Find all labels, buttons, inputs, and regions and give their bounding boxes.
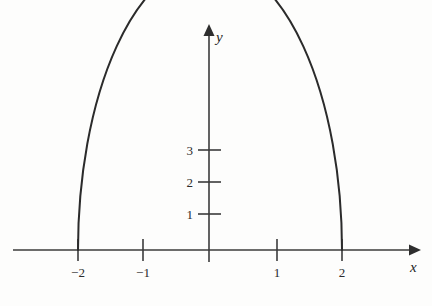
x-tick-label-2: 2 xyxy=(339,265,346,280)
semicircle-curve xyxy=(78,0,342,250)
x-tick-label-neg2: −2 xyxy=(71,265,85,280)
y-tick-label-3: 3 xyxy=(187,143,194,158)
x-tick-label-neg1: −1 xyxy=(136,265,150,280)
x-axis-arrow-icon xyxy=(409,245,421,256)
y-tick-label-2: 2 xyxy=(187,175,194,190)
chart-canvas: −2 −1 1 2 1 2 3 y x xyxy=(0,0,432,306)
y-tick-label-1: 1 xyxy=(187,207,194,222)
chart-figure: −2 −1 1 2 1 2 3 y x xyxy=(0,0,432,306)
x-axis-label: x xyxy=(409,259,417,275)
y-axis-label: y xyxy=(214,29,223,45)
y-axis-arrow-icon xyxy=(204,24,215,36)
x-tick-label-1: 1 xyxy=(274,265,281,280)
